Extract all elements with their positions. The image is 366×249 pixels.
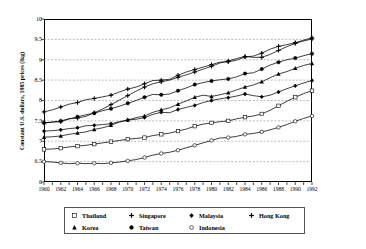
legend-label: Korea	[82, 224, 98, 231]
series-thailand	[42, 89, 314, 151]
legend-label: Hong Kong	[259, 212, 289, 219]
legend-item-singapore[interactable]: Singapore	[127, 209, 166, 221]
series-singapore	[42, 37, 314, 125]
legend-row-2: KoreaTaiwanIndonesia	[65, 221, 304, 233]
legend-label: Indonesia	[199, 224, 225, 231]
filled-circle-icon	[127, 223, 136, 232]
open-circle-icon	[187, 223, 196, 232]
legend-item-korea[interactable]: Korea	[70, 221, 98, 233]
series-indonesia	[42, 114, 314, 165]
series-taiwan	[42, 52, 314, 125]
legend-row-1: ThailandSingaporeMalaysiaHong Kong	[65, 209, 304, 221]
legend-label: Taiwan	[139, 224, 158, 231]
legend-label: Thailand	[82, 212, 106, 219]
legend-label: Singapore	[139, 212, 166, 219]
legend-item-indonesia[interactable]: Indonesia	[187, 221, 225, 233]
x-axis-ticks	[44, 182, 312, 185]
filled-diamond-icon	[187, 211, 196, 220]
series-korea	[42, 61, 314, 139]
x-tick-label: 1992	[300, 186, 324, 192]
chart-legend: ThailandSingaporeMalaysiaHong Kong Korea…	[64, 207, 305, 234]
legend-item-taiwan[interactable]: Taiwan	[127, 221, 158, 233]
chart-figure: Constant U.S. dollars, 1985 prices (lkg)…	[0, 0, 366, 249]
filled-plus-icon	[127, 211, 136, 220]
x-axis-tick-labels: 1960196219641966196819701972197419761978…	[0, 186, 366, 198]
legend-item-thailand[interactable]: Thailand	[70, 209, 106, 221]
legend-label: Malaysia	[199, 212, 223, 219]
legend-item-malaysia[interactable]: Malaysia	[187, 209, 223, 221]
open-square-icon	[70, 211, 79, 220]
filled-triangle-icon	[70, 223, 79, 232]
legend-item-hong-kong[interactable]: Hong Kong	[247, 209, 289, 221]
y-axis-ticks	[41, 19, 44, 182]
filled-plus-icon	[247, 211, 256, 220]
